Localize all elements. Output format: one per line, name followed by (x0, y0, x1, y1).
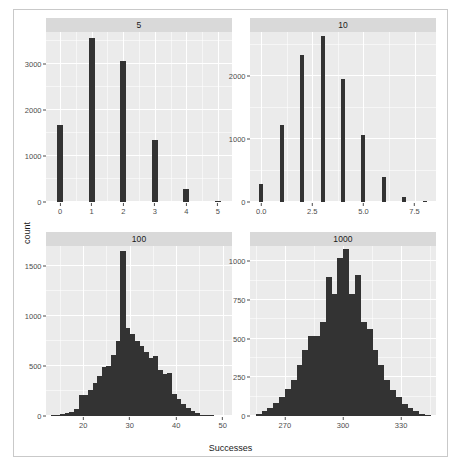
gridline-vertical-minor (139, 32, 140, 202)
tick-mark (222, 417, 223, 420)
tick-mark (401, 417, 402, 420)
y-tick-label: 0 (241, 198, 250, 207)
plot-area-1000 (250, 246, 436, 416)
gridline-vertical (415, 32, 416, 202)
x-tick-label: 5 (216, 203, 220, 216)
facet-panel-5: 5 (46, 18, 232, 202)
x-tick-label: 50 (219, 417, 227, 430)
tick-text: 500 (29, 362, 42, 371)
facet-grid: 010002000300001234550100020000.02.55.07.… (14, 10, 447, 456)
tick-text: 1000 (25, 312, 42, 321)
tick-mark (83, 417, 84, 420)
tick-mark (154, 203, 155, 206)
bar (321, 36, 325, 202)
x-tick-label: 3 (153, 203, 157, 216)
x-tick-label: 40 (172, 417, 180, 430)
y-axis-ticks-10: 010002000 (220, 32, 250, 202)
bar (423, 201, 427, 202)
gridline-vertical-minor (338, 32, 339, 202)
chart-figure: count Successes 010002000300001234550100… (13, 9, 448, 457)
tick-text: 250 (233, 373, 246, 382)
bar (152, 140, 158, 202)
gridline-horizontal-minor (250, 44, 436, 45)
tick-mark (414, 203, 415, 206)
plot-area-10 (250, 32, 436, 202)
y-tick-label: 0 (37, 198, 46, 207)
facet-panel-1000: 1000 (250, 232, 436, 416)
gridline-horizontal-minor (46, 290, 232, 291)
y-tick-label: 0 (241, 412, 250, 421)
histogram-bin (424, 415, 430, 416)
tick-text: 300 (337, 421, 350, 430)
tick-text: 2000 (25, 106, 42, 115)
tick-text: 3 (153, 207, 157, 216)
gridline-vertical-minor (389, 32, 390, 202)
gridline-vertical-minor (202, 32, 203, 202)
gridline-vertical (83, 246, 84, 416)
tick-text: 2 (121, 207, 125, 216)
tick-mark (217, 203, 218, 206)
y-tick-label: 500 (29, 362, 46, 371)
tick-text: 0 (58, 207, 62, 216)
y-tick-label: 250 (233, 373, 250, 382)
gridline-vertical-minor (430, 246, 431, 416)
tick-text: 1500 (25, 262, 42, 271)
y-axis-ticks-1000: 02505007501000 (220, 246, 250, 416)
tick-text: 1000 (25, 152, 42, 161)
tick-mark (284, 417, 285, 420)
facet-strip-label-100: 100 (46, 232, 232, 246)
tick-text: 2000 (229, 72, 246, 81)
y-tick-label: 2000 (229, 72, 250, 81)
gridline-vertical (312, 32, 313, 202)
bar (341, 79, 345, 202)
tick-mark (123, 203, 124, 206)
plot-area-5 (46, 32, 232, 202)
tick-mark (363, 203, 364, 206)
tick-text: 0 (241, 198, 245, 207)
y-tick-label: 750 (233, 296, 250, 305)
tick-mark (261, 203, 262, 206)
tick-mark (129, 417, 130, 420)
plot-area-100 (46, 246, 232, 416)
tick-text: 0.0 (256, 207, 266, 216)
bar (259, 184, 263, 202)
gridline-vertical (218, 32, 219, 202)
gridline-vertical (261, 32, 262, 202)
x-tick-label: 330 (395, 417, 408, 430)
tick-text: 0 (241, 412, 245, 421)
bar (402, 197, 406, 202)
tick-mark (60, 203, 61, 206)
tick-text: 270 (279, 421, 292, 430)
gridline-vertical-minor (60, 246, 61, 416)
y-tick-label: 1500 (25, 262, 46, 271)
gridline-vertical (176, 246, 177, 416)
tick-mark (312, 203, 313, 206)
x-tick-label: 4 (184, 203, 188, 216)
tick-text: 5 (216, 207, 220, 216)
gridline-horizontal (250, 75, 436, 76)
tick-text: 40 (172, 421, 180, 430)
facet-panel-10: 10 (250, 18, 436, 202)
tick-text: 1 (90, 207, 94, 216)
gridline-horizontal (46, 265, 232, 266)
x-tick-label: 0.0 (256, 203, 266, 216)
y-axis-ticks-5: 0100020003000 (16, 32, 46, 202)
tick-text: 30 (126, 421, 134, 430)
tick-text: 330 (395, 421, 408, 430)
y-tick-label: 500 (233, 334, 250, 343)
tick-text: 20 (79, 421, 87, 430)
bar (300, 55, 304, 202)
x-tick-label: 20 (79, 417, 87, 430)
tick-text: 750 (233, 296, 246, 305)
y-axis-ticks-100: 050010001500 (16, 246, 46, 416)
tick-text: 7.5 (409, 207, 419, 216)
bar (89, 38, 95, 202)
x-axis-ticks-1000: 270300330 (250, 417, 436, 434)
bar (280, 125, 284, 202)
tick-text: 5.0 (358, 207, 368, 216)
tick-text: 4 (184, 207, 188, 216)
y-tick-label: 1000 (229, 257, 250, 266)
gridline-vertical-minor (107, 32, 108, 202)
bar (120, 61, 126, 203)
x-tick-label: 300 (337, 417, 350, 430)
